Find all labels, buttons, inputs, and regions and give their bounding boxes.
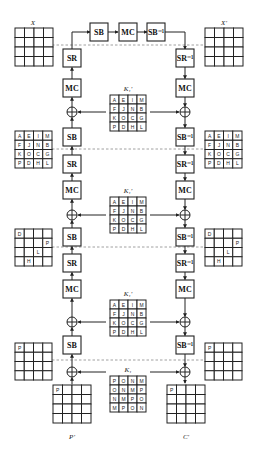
grid-cell-value: N xyxy=(131,208,135,214)
state-c-prime-grid: P xyxy=(167,385,205,423)
grid-cell-value: M xyxy=(112,405,116,411)
grid-cell xyxy=(43,343,52,352)
grid-cell-value: N xyxy=(226,142,230,148)
top-sb-box: SB xyxy=(90,23,108,41)
grid-cell-value: H xyxy=(36,160,40,166)
grid-cell-value: I xyxy=(132,302,133,308)
grid-cell xyxy=(205,248,214,257)
grid-cell xyxy=(224,343,233,352)
grid-cell xyxy=(43,362,52,371)
grid-cell-value: C xyxy=(36,151,40,157)
grid-cell-value: D xyxy=(27,160,31,166)
arrow-to-right-srinv xyxy=(165,32,185,49)
grid-cell xyxy=(24,238,33,247)
right-srinv-2-label: SR⁻¹ xyxy=(177,160,194,169)
grid-cell xyxy=(233,343,242,352)
grid-cell xyxy=(215,57,225,67)
grid-cell xyxy=(24,229,33,238)
differential-trail-diagram: SBMCSB⁻¹SRMCSBSRMCSBSRMCSBSR⁻¹MCSB⁻¹SR⁻¹… xyxy=(0,0,258,456)
grid-cell xyxy=(24,362,33,371)
grid-cell xyxy=(34,57,44,67)
top-mc-box-label: MC xyxy=(121,28,135,37)
grid-cell xyxy=(43,257,52,266)
grid-cell-value: L xyxy=(140,329,143,335)
state-left-grid-1: AEIMFJNBKOCGPDHL xyxy=(15,131,52,168)
grid-cell-value: M xyxy=(45,133,49,139)
state-grids: K₁'AEIMFJNBKOCGPDHLK₁'AEIMFJNBKOCGPDHLK₁… xyxy=(15,28,243,423)
grid-cell xyxy=(43,248,52,257)
grid-cell xyxy=(233,371,242,380)
top-sbinv-box: SB⁻¹ xyxy=(147,23,165,41)
grid-cell-value: N xyxy=(131,106,135,112)
grid-cell xyxy=(167,414,177,424)
grid-cell xyxy=(24,371,33,380)
grid-cell xyxy=(34,47,44,57)
grid-cell xyxy=(214,248,223,257)
grid-cell-value: O xyxy=(131,405,135,411)
round-key-grid-1: AEIMFJNBKOCGPDHL xyxy=(110,95,146,131)
grid-cell-value: L xyxy=(140,226,143,232)
right-xor-2 xyxy=(180,210,190,220)
left-sr-2-label: SR xyxy=(67,160,77,169)
round-key-grid-3: AEIMFJNBKOCGPDHL xyxy=(110,300,146,336)
label-c-prime: C' xyxy=(183,433,190,441)
left-mc-2-label: MC xyxy=(65,186,79,195)
grid-cell xyxy=(233,362,242,371)
left-sb-1: SB xyxy=(63,128,81,146)
grid-cell-value: N xyxy=(113,396,117,402)
grid-cell xyxy=(34,362,43,371)
grid-cell-value: F xyxy=(208,142,211,148)
top-sbinv-box-label: SB⁻¹ xyxy=(148,28,165,37)
grid-cell-value: G xyxy=(140,217,144,223)
grid-cell-value: C xyxy=(131,217,135,223)
grid-cell-value: L xyxy=(46,160,49,166)
grid-cell xyxy=(186,395,196,405)
grid-cell xyxy=(63,395,73,405)
grid-cell xyxy=(63,385,73,395)
left-mc-3: MC xyxy=(63,280,81,298)
grid-cell xyxy=(224,257,233,266)
label-x-prime: X' xyxy=(220,19,227,27)
grid-cell-value: O xyxy=(217,151,221,157)
label-x: X xyxy=(30,19,36,27)
right-mc-2-label: MC xyxy=(178,186,192,195)
right-srinv-1: SR⁻¹ xyxy=(176,49,194,67)
grid-cell-value: H xyxy=(217,258,221,264)
grid-cell-value: C xyxy=(131,320,135,326)
left-mc-1-label: MC xyxy=(65,84,79,93)
grid-cell xyxy=(224,238,233,247)
grid-cell xyxy=(15,57,25,67)
grid-cell-value: H xyxy=(131,329,135,335)
grid-cell-value: O xyxy=(122,378,126,384)
left-xor-3 xyxy=(67,317,77,327)
grid-cell-value: L xyxy=(140,124,143,130)
right-mc-1: MC xyxy=(176,79,194,97)
grid-cell xyxy=(215,38,225,48)
grid-cell xyxy=(15,238,24,247)
grid-cell-value: M xyxy=(139,302,143,308)
left-xor-4 xyxy=(67,367,77,377)
grid-cell xyxy=(82,395,92,405)
grid-cell xyxy=(205,257,214,266)
grid-cell xyxy=(82,385,92,395)
state-left-grid-2: DPLH xyxy=(15,229,52,266)
left-sb-2-label: SB xyxy=(67,233,77,242)
grid-cell xyxy=(15,362,24,371)
left-sr-1: SR xyxy=(63,49,81,67)
grid-cell-value: D xyxy=(122,226,126,232)
grid-cell-value: L xyxy=(236,160,239,166)
grid-cell xyxy=(15,248,24,257)
grid-cell xyxy=(15,257,24,266)
grid-cell xyxy=(34,343,43,352)
grid-cell xyxy=(43,371,52,380)
grid-cell-value: N xyxy=(36,142,40,148)
grid-cell-value: D xyxy=(122,124,126,130)
left-sb-3: SB xyxy=(63,336,81,354)
grid-cell xyxy=(205,371,214,380)
grid-cell-value: G xyxy=(140,320,144,326)
grid-cell xyxy=(233,248,242,257)
grid-cell-value: D xyxy=(217,160,221,166)
round-key-grid-4: PONMONMPNMPOMPON xyxy=(110,376,146,412)
grid-cell xyxy=(53,414,63,424)
grid-cell xyxy=(24,248,33,257)
